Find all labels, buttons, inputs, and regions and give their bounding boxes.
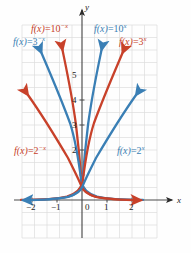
label-f-2-neg-x-exp: −x: [39, 144, 47, 151]
label-f-3-neg-x: f(x)=3−x: [13, 36, 45, 47]
label-f-10-x-base: 10: [114, 23, 124, 34]
label-f-10-neg-x: f(x)=10−x: [31, 23, 68, 34]
label-f-10-x-exp: x: [124, 22, 127, 29]
x-tick-minus-1: −1: [51, 202, 61, 212]
label-f-2-x: f(x)=2x: [117, 145, 145, 156]
x-tick-1: 1: [104, 202, 109, 212]
x-tick-minus-2: −2: [26, 202, 36, 212]
label-f-10-x: f(x)=10x: [94, 23, 127, 34]
label-f-2-x-fn: f(x): [117, 145, 131, 156]
x-tick-0: 0: [85, 202, 90, 212]
y-tick-2: 2: [72, 145, 77, 155]
label-f-3-neg-x-exp: −x: [38, 35, 46, 42]
label-f-3-x-fn: f(x): [119, 36, 133, 47]
label-f-10-x-fn: f(x): [94, 23, 108, 34]
label-f-3-x: f(x)=3x: [119, 36, 147, 47]
y-axis-label: y: [85, 2, 89, 12]
y-tick-4: 4: [72, 95, 77, 105]
label-f-10-neg-x-fn: f(x): [31, 23, 45, 34]
y-tick-5: 5: [72, 70, 77, 80]
label-f-2-neg-x: f(x)=2−x: [14, 145, 46, 156]
x-tick-2: 2: [129, 202, 134, 212]
x-axis-label: x: [177, 195, 181, 205]
label-f-10-neg-x-exp: −x: [61, 22, 69, 29]
exponential-functions-figure: f(x)=10−x f(x)=10x f(x)=3−x f(x)=3x f(x)…: [0, 0, 191, 253]
label-f-3-x-exp: x: [144, 35, 147, 42]
y-tick-3: 3: [72, 120, 77, 130]
label-f-2-neg-x-fn: f(x): [14, 145, 28, 156]
label-f-10-neg-x-base: 10: [51, 23, 61, 34]
label-f-3-neg-x-fn: f(x): [13, 36, 27, 47]
label-f-2-x-exp: x: [142, 144, 145, 151]
